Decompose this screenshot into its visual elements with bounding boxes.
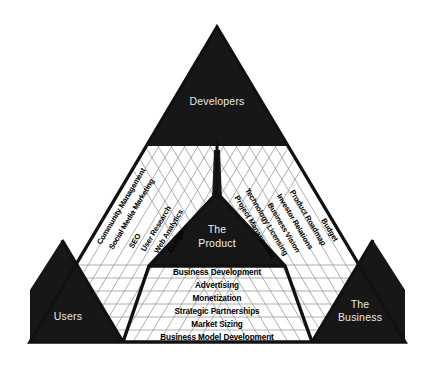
corner-label-developers: Developers bbox=[189, 95, 244, 107]
center-label-line2: Product bbox=[198, 237, 236, 249]
bottom-row-label-1: Advertising bbox=[195, 281, 239, 290]
product-triangle-diagram: Developers Users The Business The Produc… bbox=[0, 0, 433, 367]
center-label-line1: The bbox=[208, 223, 227, 235]
bottom-row-label-2: Monetization bbox=[193, 294, 242, 303]
bottom-row-label-3: Strategic Partnerships bbox=[174, 307, 260, 316]
bottom-row-label-5: Business Model Development bbox=[160, 333, 274, 342]
triangle-diagram-svg: Developers Users The Business The Produc… bbox=[0, 0, 433, 367]
bottom-row-label-0: Business Development bbox=[173, 268, 261, 277]
corner-developers: Developers bbox=[146, 27, 288, 146]
corner-label-business-line2: Business bbox=[338, 311, 382, 323]
corner-label-users: Users bbox=[54, 310, 82, 322]
bottom-row-label-4: Market Sizing bbox=[191, 320, 243, 329]
corner-label-business-line1: The bbox=[351, 298, 370, 310]
